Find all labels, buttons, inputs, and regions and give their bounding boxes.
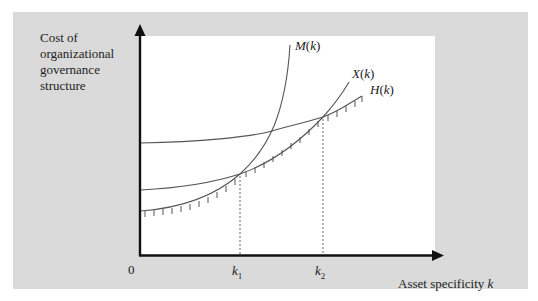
curve-m-label: M(k) [295, 38, 320, 54]
origin-label: 0 [128, 262, 135, 278]
curve-h [141, 96, 362, 143]
tick-k1-label: k1 [232, 263, 242, 281]
y-axis-arrow-icon [135, 24, 146, 36]
x-axis-arrow-icon [432, 250, 444, 261]
curve-h-label: H(k) [370, 82, 394, 98]
tick-k2-label: k2 [315, 263, 325, 281]
y-axis-label: Cost of organizational governance struct… [40, 30, 135, 94]
x-axis-label: Asset specificity k [398, 276, 493, 292]
curve-x-label: X(k) [352, 66, 374, 82]
curve-m [141, 45, 290, 211]
